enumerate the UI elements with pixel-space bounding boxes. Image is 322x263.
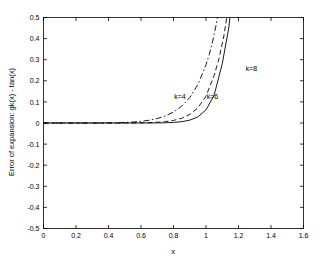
curve-label-k4: k=4 bbox=[174, 93, 186, 100]
x-axis-title: x bbox=[171, 247, 175, 256]
y-tick-label: 0.1 bbox=[30, 99, 40, 106]
x-tick-label: 1.6 bbox=[299, 232, 309, 239]
y-tick-label: 0.2 bbox=[30, 77, 40, 84]
curve-k6 bbox=[44, 0, 242, 123]
x-tick-label: 1 bbox=[204, 232, 208, 239]
y-tick-label: 0 bbox=[36, 120, 40, 127]
curve-k8 bbox=[44, 0, 254, 123]
y-tick-labels: -0.5-0.4-0.3-0.2-0.100.10.20.30.40.5 bbox=[27, 14, 39, 232]
curve-label-k8: k=8 bbox=[246, 65, 258, 72]
curve-label-k6: k=6 bbox=[207, 93, 219, 100]
x-tick-label: 0.4 bbox=[104, 232, 114, 239]
x-tick-label: 1.2 bbox=[234, 232, 244, 239]
x-tick-label: 0.8 bbox=[169, 232, 179, 239]
y-tick-label: -0.2 bbox=[27, 162, 39, 169]
x-tick-label: 1.4 bbox=[266, 232, 276, 239]
y-tick-label: 0.5 bbox=[30, 14, 40, 21]
curve-k4 bbox=[44, 0, 229, 123]
curve-annotations: k=4k=6k=8 bbox=[174, 65, 257, 99]
chart-plot: 00.20.40.60.811.21.41.6 -0.5-0.4-0.3-0.2… bbox=[0, 0, 322, 263]
x-tick-label: 0.2 bbox=[71, 232, 81, 239]
x-tick-labels: 00.20.40.60.811.21.41.6 bbox=[42, 232, 309, 239]
x-tick-label: 0.6 bbox=[136, 232, 146, 239]
figure-canvas: 00.20.40.60.811.21.41.6 -0.5-0.4-0.3-0.2… bbox=[0, 0, 322, 263]
y-tick-label: -0.5 bbox=[27, 225, 39, 232]
y-axis-title: Error of expansion: gk(x) - tan(x) bbox=[7, 68, 16, 176]
y-tick-label: 0.3 bbox=[30, 56, 40, 63]
curves-group bbox=[44, 0, 254, 123]
y-tick-label: 0.4 bbox=[30, 35, 40, 42]
y-tick-label: -0.1 bbox=[27, 141, 39, 148]
y-tick-label: -0.3 bbox=[27, 183, 39, 190]
x-tick-label: 0 bbox=[42, 232, 46, 239]
y-tick-label: -0.4 bbox=[27, 204, 39, 211]
